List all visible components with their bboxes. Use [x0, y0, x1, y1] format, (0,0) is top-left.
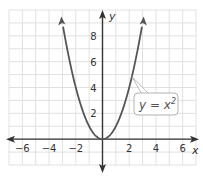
y-tick-label: 2 [90, 108, 96, 119]
x-tick-label: −6 [15, 143, 30, 154]
parabola-chart: −6−4−22462468 y = x2 x y [0, 0, 203, 176]
y-axis-label: y [108, 10, 116, 23]
x-tick-label: 4 [153, 143, 159, 154]
callout-equation: y = x2 [138, 97, 176, 112]
equation-callout: y = x2 [132, 77, 178, 115]
tick-labels: −6−4−22462468 [15, 31, 186, 154]
y-tick-label: 8 [90, 31, 96, 42]
x-tick-label: 2 [126, 143, 132, 154]
x-axis-label: x [191, 144, 199, 157]
y-tick-label: 6 [90, 57, 96, 68]
y-tick-label: 4 [90, 83, 96, 94]
x-tick-label: −4 [42, 143, 57, 154]
axes [6, 10, 199, 173]
x-tick-label: 6 [179, 143, 185, 154]
x-tick-label: −2 [68, 143, 83, 154]
